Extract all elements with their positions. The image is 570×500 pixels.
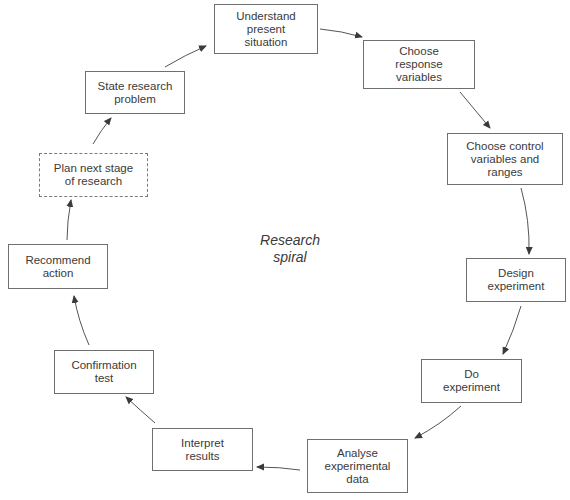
node-label: Interpret results [181,437,224,463]
node-label: Choose response variables [395,45,442,84]
node-label: Plan next stage of research [54,162,133,188]
arrow-understand-to-response [320,29,362,37]
arrow-do-to-analyse [415,406,461,438]
arrow-recommend-to-plan [67,200,71,240]
arrow-control-to-design [521,188,529,254]
arrow-analyse-to-interpret [257,467,300,470]
node-label: Do experiment [443,368,500,394]
node-choose-response-variables: Choose response variables [363,40,475,89]
node-label: Analyse experimental data [325,447,391,486]
node-choose-control-variables: Choose control variables and ranges [447,133,563,185]
node-plan-next-stage: Plan next stage of research [39,153,148,197]
node-state-research-problem: State research problem [85,71,185,114]
arrow-interpret-to-confirm [126,397,155,423]
node-design-experiment: Design experiment [466,258,566,302]
research-spiral-label: Research spiral [245,232,335,266]
node-understand-present-situation: Understand present situation [214,4,318,54]
arrow-confirm-to-recommend [74,296,89,345]
node-label: Design experiment [488,267,545,293]
node-label: Understand present situation [236,10,295,49]
arrow-response-to-control [460,92,490,128]
node-recommend-action: Recommend action [8,244,108,289]
node-label: State research problem [98,80,173,106]
arrow-plan-to-state [93,118,111,144]
node-do-experiment: Do experiment [421,359,522,403]
arrow-state-to-understand [165,46,206,67]
node-interpret-results: Interpret results [152,428,253,471]
node-label: Confirmation test [71,359,136,385]
node-analyse-experimental-data: Analyse experimental data [307,439,408,493]
node-label: Recommend action [25,254,90,280]
arrow-design-to-do [503,306,521,354]
node-confirmation-test: Confirmation test [54,350,154,394]
node-label: Choose control variables and ranges [466,140,543,179]
